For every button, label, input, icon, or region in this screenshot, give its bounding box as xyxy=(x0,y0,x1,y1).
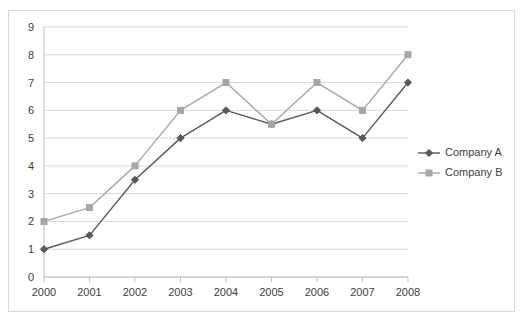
gridlines xyxy=(44,27,408,277)
data-point-marker xyxy=(313,107,320,114)
y-tick-label: 8 xyxy=(28,49,34,61)
data-point-marker xyxy=(405,52,411,58)
y-tick-label: 3 xyxy=(28,188,34,200)
y-tick-label: 6 xyxy=(28,104,34,116)
legend-marker-swatch xyxy=(425,149,432,156)
y-tick-label: 5 xyxy=(28,132,34,144)
data-point-marker xyxy=(269,121,275,127)
legend-label: Company A xyxy=(445,146,503,158)
data-point-marker xyxy=(40,246,47,253)
y-axis-tick-labels: 0123456789 xyxy=(28,21,34,283)
legend-item-company-b[interactable]: Company B xyxy=(418,166,502,178)
data-series-layer xyxy=(40,52,411,253)
legend-item-company-a[interactable]: Company A xyxy=(418,146,503,158)
data-point-marker xyxy=(178,107,184,113)
x-axis-tick-labels: 200020012002200320042005200620072008 xyxy=(32,286,420,298)
x-tick-label: 2000 xyxy=(32,286,56,298)
y-tick-label: 1 xyxy=(28,243,34,255)
data-point-marker xyxy=(223,80,229,86)
line-chart: 0123456789 20002001200220032004200520062… xyxy=(0,0,532,322)
data-point-marker xyxy=(360,107,366,113)
data-point-marker xyxy=(314,80,320,86)
y-tick-label: 9 xyxy=(28,21,34,33)
data-point-marker xyxy=(222,107,229,114)
y-tick-label: 0 xyxy=(28,271,34,283)
data-point-marker xyxy=(87,205,93,211)
x-tick-label: 2008 xyxy=(396,286,420,298)
y-tick-label: 7 xyxy=(28,77,34,89)
x-axis-ticks xyxy=(44,277,408,282)
data-point-marker xyxy=(41,218,47,224)
chart-legend: Company ACompany B xyxy=(418,146,503,178)
y-tick-label: 4 xyxy=(28,160,34,172)
x-tick-label: 2007 xyxy=(350,286,374,298)
x-tick-label: 2005 xyxy=(259,286,283,298)
x-tick-label: 2004 xyxy=(214,286,238,298)
x-tick-label: 2002 xyxy=(123,286,147,298)
y-tick-label: 2 xyxy=(28,215,34,227)
x-tick-label: 2003 xyxy=(168,286,192,298)
legend-label: Company B xyxy=(445,166,502,178)
x-tick-label: 2006 xyxy=(305,286,329,298)
data-point-marker xyxy=(132,163,138,169)
x-tick-label: 2001 xyxy=(77,286,101,298)
legend-marker-swatch xyxy=(426,170,432,176)
